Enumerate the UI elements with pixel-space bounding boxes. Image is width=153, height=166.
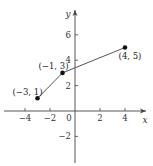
x-axis-label: x (142, 115, 147, 125)
labels: xy(−3, 1)(−1, 3)(4, 5) (13, 9, 148, 125)
x-tick-label: −2 (44, 113, 57, 123)
y-tick-label: 6 (66, 30, 71, 40)
point-label: (−3, 1) (13, 87, 43, 97)
x-tick-label: 4 (122, 113, 127, 123)
x-tick-label: −4 (19, 113, 32, 123)
line-segment (38, 48, 126, 99)
x-tick-label: 2 (97, 113, 102, 123)
x-tick-label: 0 (66, 113, 71, 123)
point-label: (−1, 3) (39, 61, 69, 71)
data-point (123, 45, 128, 50)
data-point (60, 71, 65, 76)
ticks: −4−2024642−2 (19, 30, 128, 142)
y-axis-label: y (64, 9, 71, 19)
point-label: (4, 5) (119, 51, 142, 61)
y-tick-label: 2 (66, 81, 71, 91)
chart: −4−2024642−2 xy(−3, 1)(−1, 3)(4, 5) (0, 0, 153, 166)
series (35, 45, 127, 100)
y-tick-label: −2 (58, 131, 71, 141)
